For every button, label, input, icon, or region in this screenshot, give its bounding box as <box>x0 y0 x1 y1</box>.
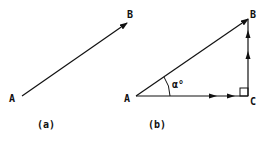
right-angle-marker <box>240 88 248 96</box>
label-b-vertex-c: C <box>250 97 256 107</box>
vector-ab-b <box>136 19 248 96</box>
caption-a: (a) <box>37 120 55 130</box>
angle-arc <box>164 77 170 96</box>
arrowhead-cb-2 <box>246 30 251 38</box>
label-b-vertex-b: B <box>250 10 256 20</box>
label-b-vertex-a: A <box>124 94 130 104</box>
vector-ab-a <box>22 23 127 96</box>
caption-b: (b) <box>148 120 166 130</box>
label-a-end: B <box>127 10 133 20</box>
arrowhead-ac-1 <box>209 94 217 99</box>
arrowhead-ac-2 <box>227 94 235 99</box>
angle-label: α° <box>172 80 184 90</box>
label-a-start: A <box>9 94 15 104</box>
arrowhead-cb-1 <box>246 51 251 59</box>
